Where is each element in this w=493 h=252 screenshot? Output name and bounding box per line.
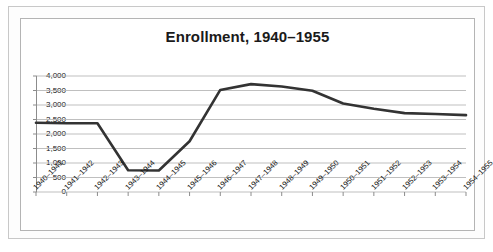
chart-page: Enrollment, 1940–1955 05001,0001,5002,00… [0,0,493,252]
enrollment-line-chart [36,76,466,192]
x-axis-labels: 1940–19411941–19421942–19431943–19441944… [36,186,466,246]
enrollment-series-line [36,84,466,170]
plot-area [36,76,466,192]
chart-title: Enrollment, 1940–1955 [20,28,475,45]
